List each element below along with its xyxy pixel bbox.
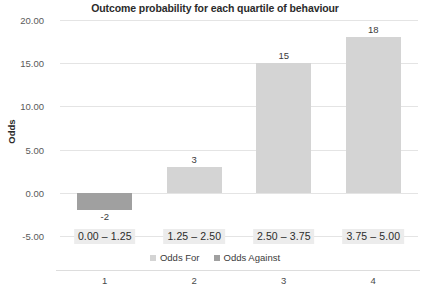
legend-label: Odds For — [160, 252, 200, 263]
y-axis-tick-label: 10.00 — [0, 101, 44, 112]
legend-swatch-icon — [150, 255, 156, 261]
x-axis-category-label: 2.50 – 3.75 — [253, 229, 315, 244]
bar[interactable] — [167, 167, 222, 193]
tier-label: 3 — [281, 275, 286, 286]
tier-label: 2 — [192, 275, 197, 286]
y-axis-tick-label: 15.00 — [0, 58, 44, 69]
y-axis-tick-label: 0.00 — [0, 187, 44, 198]
bar-value-label: -2 — [101, 211, 109, 222]
bar-value-label: 15 — [278, 50, 289, 61]
y-axis-tick-label: -5.00 — [0, 231, 44, 242]
chart-legend: Odds ForOdds Against — [0, 252, 430, 263]
legend-item[interactable]: Odds For — [150, 252, 200, 263]
bar[interactable] — [346, 37, 401, 193]
y-axis-tick-label: 20.00 — [0, 15, 44, 26]
gridline — [60, 20, 418, 21]
x-axis-category-label: 3.75 – 5.00 — [342, 229, 404, 244]
tier-label: 1 — [102, 275, 107, 286]
y-axis-tick-label: 5.00 — [0, 144, 44, 155]
legend-label: Odds Against — [224, 252, 281, 263]
bar[interactable] — [256, 63, 311, 193]
legend-item[interactable]: Odds Against — [214, 252, 281, 263]
legend-swatch-icon — [214, 255, 220, 261]
bar-value-label: 3 — [192, 154, 197, 165]
tier-label: 4 — [371, 275, 376, 286]
bar-value-label: 18 — [368, 24, 379, 35]
chart-title: Outcome probability for each quartile of… — [0, 2, 430, 14]
tier-separator-line — [56, 270, 420, 271]
bar[interactable] — [77, 193, 132, 210]
x-axis-category-label: 1.25 – 2.50 — [163, 229, 225, 244]
plot-area: 20.0015.0010.005.000.00-5.00 -231518 — [60, 20, 418, 236]
x-axis-category-label: 0.00 – 1.25 — [74, 229, 136, 244]
chart-container: Outcome probability for each quartile of… — [0, 0, 430, 295]
